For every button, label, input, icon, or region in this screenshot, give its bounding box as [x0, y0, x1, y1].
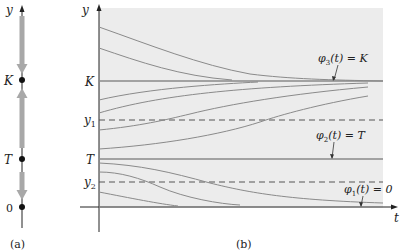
level-label-t: T — [86, 153, 95, 167]
panel-a-label-k: K — [3, 74, 14, 88]
panel-b-t-label: t — [394, 211, 399, 225]
panel-a-label-zero: 0 — [6, 202, 13, 215]
panel-b-y-label: y — [81, 3, 89, 17]
diagram-canvas: y K T 0 (a) — [0, 0, 404, 252]
annotation-phi1: φ1(t) = 0 — [344, 183, 392, 198]
level-label-k: K — [84, 75, 95, 89]
panel-b-caption: (b) — [236, 238, 252, 251]
annotation-phi3: φ3(t) = K — [318, 52, 368, 67]
panel-a-y-label: y — [5, 3, 13, 17]
level-label-y2: y2 — [83, 175, 96, 191]
level-label-y1: y1 — [83, 113, 96, 129]
panel-a-caption: (a) — [10, 238, 25, 251]
panel-a-phase-line — [17, 5, 28, 228]
annotation-phi2: φ2(t) = T — [316, 129, 366, 144]
panel-a-label-t: T — [4, 153, 13, 167]
panel-b-plot — [80, 4, 398, 232]
